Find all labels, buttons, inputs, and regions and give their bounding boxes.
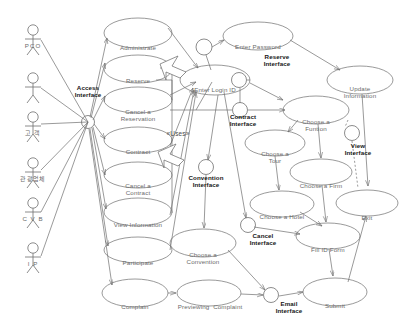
uc-cancel-reservation-shape[interactable] [104, 87, 172, 113]
uc-exit-shape[interactable] [336, 190, 398, 216]
diagram-vector-layer [0, 0, 414, 330]
iface-cancel-port[interactable] [241, 218, 256, 233]
iface-contract-port[interactable] [232, 73, 247, 88]
hub-to-usecase-links [89, 38, 112, 285]
usecase-diagram-canvas: PCO 고 객 관광업체 C V B I P Access Interface … [0, 0, 414, 330]
uc-complain-shape[interactable] [102, 279, 168, 307]
uc-choose-a-firm-shape[interactable] [290, 159, 352, 185]
uc-choose-a-tour-shape[interactable] [245, 130, 305, 156]
iface-view-port-a[interactable] [233, 103, 248, 118]
uc-update-information-shape[interactable] [327, 66, 393, 94]
uc-administrate-shape[interactable] [104, 18, 172, 48]
uc-choose-a-convention-shape[interactable] [170, 229, 236, 257]
iface-view-port-b[interactable] [345, 126, 360, 141]
uc-previewing-complaint-shape[interactable] [177, 280, 241, 306]
uc-contract-shape[interactable] [104, 127, 172, 153]
uc-choose-a-hotel-shape[interactable] [250, 191, 314, 217]
interface-ports [196, 39, 360, 303]
uc-enter-login-id-shape[interactable] [180, 65, 250, 95]
uc-view-information-shape[interactable] [104, 198, 172, 226]
uc-choose-a-function-shape[interactable] [283, 96, 349, 124]
usecase-ellipses [102, 18, 398, 307]
actor-company-figure [25, 158, 41, 188]
actor-pco-figure [25, 25, 41, 55]
uc-participate-shape[interactable] [104, 237, 172, 263]
uc-cancel-contract-shape[interactable] [104, 162, 172, 188]
uc-submit-shape[interactable] [303, 278, 367, 306]
iface-email-port[interactable] [264, 288, 279, 303]
iface-reserve-port[interactable] [196, 39, 212, 55]
uc-enter-password-shape[interactable] [223, 22, 293, 50]
actor-ip-figure [25, 243, 41, 273]
iface-convention-port[interactable] [199, 160, 214, 175]
uc-fill-id-form-shape[interactable] [296, 223, 360, 249]
actor-to-hub-links [41, 40, 88, 256]
actor-gogaek-figure [25, 112, 41, 142]
actor-blank-figure [25, 73, 41, 103]
uses-arrow-contract [158, 144, 184, 168]
actor-cvb-figure [25, 198, 41, 228]
actor-figures [25, 25, 41, 273]
